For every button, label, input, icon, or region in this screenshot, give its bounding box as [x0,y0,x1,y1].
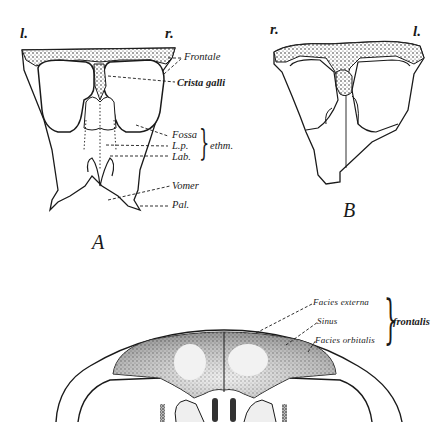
label-ethm: ethm. [210,141,233,152]
label-sinus: Sinus [317,317,338,326]
ethm-brace-icon: } [199,125,209,161]
label-lp: L.p. [172,141,188,152]
figure-a-letter: A [92,232,104,252]
label-pal: Pal. [172,200,189,211]
figure-a-right-side-label: r. [165,26,174,41]
label-vomer: Vomer [172,181,199,192]
label-crista-galli: Crista galli [177,78,225,89]
label-fossa: Fossa [172,130,197,141]
label-facies-externa: Facies externa [313,298,369,307]
figure-b-drawing [274,42,424,185]
figure-a-drawing [22,48,175,210]
figure-a-left-side-label: l. [20,26,28,41]
figure-b-letter: B [343,200,355,220]
figure-b-right-side-label: l. [413,24,421,39]
anatomy-figure [0,0,447,422]
label-facies-orbitalis: Facies orbitalis [315,336,375,345]
figure-b-left-side-label: r. [270,22,279,37]
label-lab: Lab. [172,152,191,163]
label-frontale: Frontale [184,52,220,63]
label-frontalis: frontalis [393,317,430,328]
